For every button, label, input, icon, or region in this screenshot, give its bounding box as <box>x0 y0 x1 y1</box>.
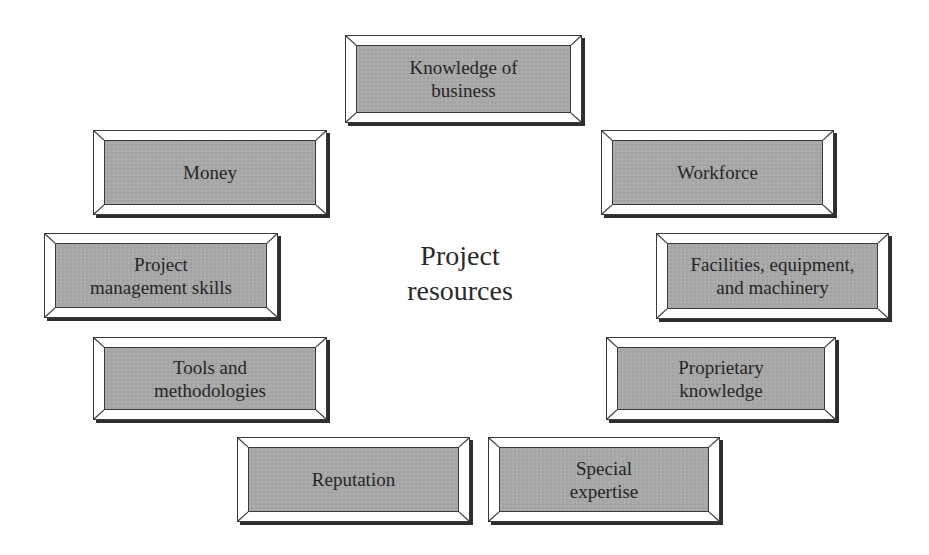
box-face: Special expertise <box>499 447 709 512</box>
box-label: Proprietary knowledge <box>674 356 767 402</box>
box-label: Tools and methodologies <box>150 356 270 402</box>
box-label: Workforce <box>673 161 762 184</box>
box-label: Special expertise <box>566 457 643 503</box>
box-reputation: Reputation <box>237 437 470 522</box>
project-resources-diagram: Project resources Knowledge of business … <box>0 0 929 555</box>
box-face: Knowledge of business <box>356 45 571 113</box>
box-face: Tools and methodologies <box>104 347 316 410</box>
box-special-expertise: Special expertise <box>488 437 720 522</box>
box-face: Reputation <box>248 447 459 512</box>
box-face: Facilities, equipment, and machinery <box>667 243 878 309</box>
center-label-project-resources: Project resources <box>375 238 545 308</box>
box-face: Money <box>104 140 316 205</box>
box-workforce: Workforce <box>601 130 834 215</box>
box-label: Knowledge of business <box>405 56 521 102</box>
box-tools-and-methodologies: Tools and methodologies <box>93 337 327 420</box>
box-label: Money <box>179 161 241 184</box>
box-face: Workforce <box>612 140 823 205</box>
box-proprietary-knowledge: Proprietary knowledge <box>606 337 836 420</box>
box-facilities-equipment-machinery: Facilities, equipment, and machinery <box>656 233 889 319</box>
box-label: Facilities, equipment, and machinery <box>686 253 858 299</box>
box-project-management-skills: Project management skills <box>44 233 278 318</box>
box-knowledge-of-business: Knowledge of business <box>345 35 582 123</box>
box-face: Proprietary knowledge <box>617 347 825 410</box>
box-money: Money <box>93 130 327 215</box>
box-label: Reputation <box>308 468 399 491</box>
box-face: Project management skills <box>55 243 267 308</box>
box-label: Project management skills <box>86 253 236 299</box>
